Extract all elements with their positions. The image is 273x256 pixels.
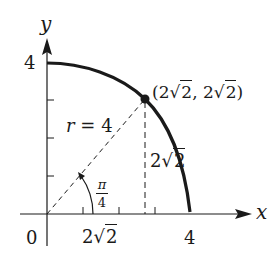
sqrt: √2	[93, 228, 117, 246]
radicand: 2	[173, 148, 185, 171]
separator: ,	[192, 82, 203, 102]
sqrt: √2	[161, 152, 185, 170]
vertical-segment-label: 2√2	[150, 152, 185, 170]
x-radicand: 2	[180, 80, 192, 102]
angle-arrow-icon	[78, 172, 85, 180]
angle-label: π 4	[96, 178, 108, 209]
x-coef: 2	[159, 82, 170, 102]
polar-quarter-circle-diagram	[0, 0, 273, 256]
y-coef: 2	[203, 82, 214, 102]
radius-value: 4	[101, 115, 112, 136]
x-axis-label: x	[256, 202, 267, 222]
point-marker	[141, 95, 150, 104]
coef: 2	[150, 150, 161, 171]
radius-var: r	[66, 115, 75, 136]
y-axis-label: y	[40, 14, 51, 34]
open-paren: (	[152, 82, 159, 102]
x-sqrt: √2	[169, 84, 192, 101]
fraction-bar	[96, 193, 108, 194]
y-tick-label-4: 4	[24, 54, 35, 72]
origin-label: 0	[26, 229, 37, 247]
x-tick-label-4: 4	[184, 229, 195, 247]
x-tick-label-two-root-two: 2√2	[82, 228, 117, 246]
angle-numerator: π	[98, 178, 107, 191]
x-axis-ticks	[83, 207, 155, 214]
radicand: 2	[105, 224, 117, 247]
radius-label: r = 4	[66, 117, 113, 135]
y-axis	[42, 38, 52, 246]
x-axis	[20, 209, 252, 219]
close-paren: )	[236, 82, 243, 102]
angle-denominator: 4	[98, 196, 106, 209]
y-sqrt: √2	[214, 84, 237, 101]
point-coordinates-label: (2√2, 2√2)	[152, 84, 243, 101]
coef: 2	[82, 226, 93, 247]
y-radicand: 2	[225, 80, 237, 102]
equals: =	[75, 115, 102, 136]
y-axis-ticks	[47, 100, 54, 176]
